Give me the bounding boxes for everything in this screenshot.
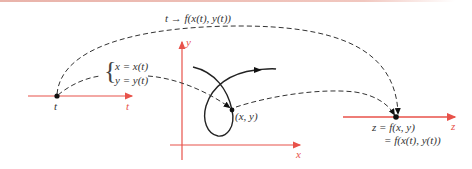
param-x-equation: x = x(t) (115, 60, 148, 72)
parametric-curve (193, 67, 276, 136)
z-equation-2: = f(x(t), y(t)) (384, 134, 441, 146)
t-point-label: t (54, 100, 57, 112)
z-equation-1: z = f(x, y) (372, 121, 415, 133)
dashed-map-xy-to-z (236, 91, 394, 114)
x-axis-label: x (296, 148, 301, 160)
point-xy-label: (x, y) (235, 110, 258, 122)
curve-direction-arrow (254, 67, 262, 73)
param-y-equation: y = y(t) (115, 74, 148, 86)
y-axis-label: y (186, 36, 191, 48)
composite-mapping-label: t → f(x(t), y(t)) (165, 12, 231, 24)
xy-point-dot (230, 108, 235, 113)
z-point-dot (393, 114, 399, 120)
t-axis-label: t (126, 100, 129, 112)
z-axis-label: z (451, 120, 455, 132)
